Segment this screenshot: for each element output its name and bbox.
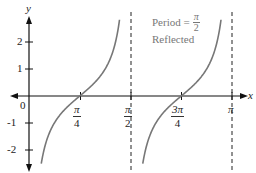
x-axis-label: x [248, 90, 253, 101]
y-tick-label-2: 2 [17, 36, 23, 47]
x-axis-right-arrow-icon [240, 93, 248, 99]
x-axis-left-arrow-icon [10, 93, 18, 99]
curve-branch-1 [41, 20, 119, 164]
graph-canvas [0, 0, 256, 173]
period-annotation: Period = π 2 Reflected [152, 12, 200, 47]
y-tick-label-1: 1 [17, 63, 23, 74]
x-tick-label-pi-over-2: π 2 [124, 104, 132, 129]
y-axis-label: y [26, 3, 31, 14]
x-tick-label-pi-over-4: π 4 [73, 104, 81, 129]
period-fraction: π 2 [193, 12, 200, 33]
origin-label: 0 [20, 100, 26, 111]
period-line: Period = π 2 [152, 12, 200, 33]
y-axis-down-arrow-icon [26, 164, 32, 172]
reflected-label: Reflected [152, 33, 200, 47]
y-tick-label-neg1: -1 [7, 117, 16, 128]
x-tick-label-pi: π [228, 104, 234, 115]
y-axis-up-arrow-icon [26, 16, 32, 24]
x-tick-label-3pi-over-4: 3π 4 [171, 104, 184, 129]
y-tick-label-neg2: -2 [7, 144, 16, 155]
